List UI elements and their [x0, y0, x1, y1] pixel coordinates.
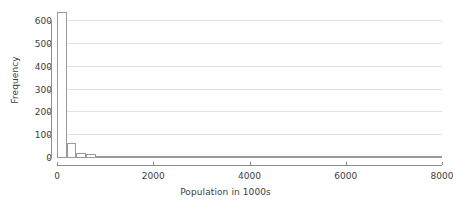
- x-axis-tick-mark: [57, 162, 58, 165]
- x-axis-tick-mark: [250, 162, 251, 165]
- x-axis-tick-label: 8000: [431, 172, 453, 181]
- x-axis-tick-label: 4000: [238, 172, 261, 181]
- x-axis-tick-mark: [153, 162, 154, 165]
- x-axis-title: Population in 1000s: [0, 187, 451, 197]
- y-axis-tick-mark: [48, 67, 51, 68]
- y-axis-tick-mark: [48, 112, 51, 113]
- y-axis-tick-mark: [48, 44, 51, 45]
- y-axis-tick-mark: [48, 158, 51, 159]
- y-axis-tick-mark: [48, 21, 51, 22]
- x-axis-tick-label: 0: [54, 172, 60, 181]
- y-axis-tick-mark: [48, 135, 51, 136]
- x-axis-tick-label: 2000: [142, 172, 165, 181]
- x-axis-tick-label: 6000: [334, 172, 357, 181]
- y-axis-tick-mark: [48, 90, 51, 91]
- x-axis-tick-mark: [346, 162, 347, 165]
- x-axis-tick-mark: [442, 162, 443, 165]
